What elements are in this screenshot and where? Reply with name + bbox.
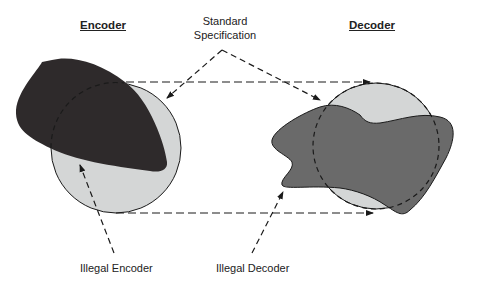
illegal-decoder-label: Illegal Decoder <box>216 262 289 274</box>
spec-arrow-to-decoder <box>222 50 320 100</box>
illegal-encoder-label: Illegal Encoder <box>80 262 153 274</box>
illegal-decoder-arrow <box>252 192 283 253</box>
encoder-title: Encoder <box>80 19 126 31</box>
standard-specification-label: Standard Specification <box>190 14 260 42</box>
spec-arrow-to-encoder <box>167 50 222 98</box>
diagram-canvas <box>0 0 480 291</box>
illegal-encoder-region <box>16 58 167 171</box>
diagram: Encoder Decoder Standard Specification I… <box>0 0 480 291</box>
standard-spec-line1: Standard <box>190 14 260 28</box>
standard-spec-line2: Specification <box>190 28 260 42</box>
decoder-title: Decoder <box>349 19 395 31</box>
